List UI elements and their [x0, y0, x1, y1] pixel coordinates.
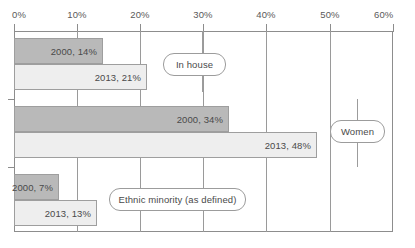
bar-in-house-2013[interactable]: 2013, 21% — [14, 64, 147, 90]
callout-label-in-house: In house — [176, 59, 213, 70]
x-axis-tick-60 — [393, 24, 394, 32]
callout-tail-in-house-bottom — [202, 76, 203, 92]
bar-chart: 0% 10% 20% 30% 40% 50% 60% 2000, 14% 201… — [0, 0, 415, 248]
bar-in-house-2000[interactable]: 2000, 14% — [14, 38, 103, 64]
callout-tail-women-bottom — [357, 143, 358, 167]
callout-tail-women-top — [357, 99, 358, 120]
x-tick-label-0: 0% — [12, 9, 26, 20]
x-tick-label-10: 10% — [67, 9, 86, 20]
bar-label-ethnic-minority-2000: 2000, 7% — [12, 182, 58, 193]
callout-in-house[interactable]: In house — [163, 53, 226, 76]
x-tick-label-40: 40% — [256, 9, 275, 20]
callout-label-women: Women — [341, 126, 374, 137]
bar-ethnic-minority-2000[interactable]: 2000, 7% — [14, 174, 59, 200]
callout-label-ethnic-minority: Ethnic minority (as defined) — [119, 194, 237, 205]
bar-label-in-house-2013: 2013, 21% — [95, 72, 146, 83]
group-separator-tick-1 — [8, 99, 15, 100]
bar-label-in-house-2000: 2000, 14% — [51, 46, 102, 57]
callout-women[interactable]: Women — [330, 120, 385, 143]
callout-ethnic-minority[interactable]: Ethnic minority (as defined) — [109, 188, 246, 211]
x-tick-label-60: 60% — [374, 9, 393, 20]
group-separator-tick-2 — [8, 167, 15, 168]
bar-ethnic-minority-2013[interactable]: 2013, 13% — [14, 200, 97, 226]
bar-women-2013[interactable]: 2013, 48% — [14, 132, 317, 158]
bar-women-2000[interactable]: 2000, 34% — [14, 106, 229, 132]
bar-label-women-2000: 2000, 34% — [177, 114, 228, 125]
x-tick-label-30: 30% — [193, 9, 212, 20]
x-tick-label-20: 20% — [130, 9, 149, 20]
callout-tail-in-house-top — [202, 31, 203, 53]
bar-label-ethnic-minority-2013: 2013, 13% — [45, 208, 96, 219]
bar-label-women-2013: 2013, 48% — [265, 140, 316, 151]
x-tick-label-50: 50% — [320, 9, 339, 20]
